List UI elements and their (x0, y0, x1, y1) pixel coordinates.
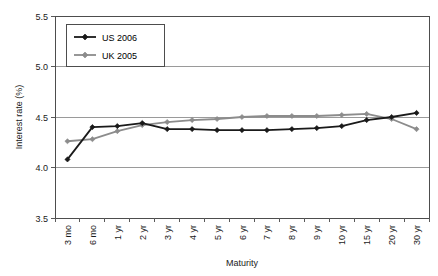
line-chart: 3.54.04.55.05.5 3 mo6 mo1 yr2 yr3 yr4 yr… (0, 0, 438, 276)
x-tick-label: 5 yr (213, 225, 223, 240)
x-tick-label: 3 mo (63, 225, 73, 245)
y-tick-label: 4.5 (35, 113, 48, 123)
x-tick-label: 9 yr (312, 225, 322, 240)
y-tick-label: 4.0 (35, 163, 48, 173)
chart-svg: 3.54.04.55.05.5 3 mo6 mo1 yr2 yr3 yr4 yr… (0, 0, 438, 276)
x-tick-label: 3 yr (163, 225, 173, 240)
y-tick-label: 5.5 (35, 12, 48, 22)
x-tick-label: 30 yr (412, 225, 422, 245)
y-tick-label: 3.5 (35, 214, 48, 224)
x-tick-label: 6 yr (238, 225, 248, 240)
x-tick-label: 7 yr (262, 225, 272, 240)
x-tick-label: 4 yr (188, 225, 198, 240)
x-tick-label: 15 yr (362, 225, 372, 245)
y-axis-title: Interest rate (%) (14, 85, 24, 150)
x-tick-label: 6 mo (88, 225, 98, 245)
x-axis-title: Maturity (226, 258, 259, 268)
x-tick-label: 20 yr (387, 225, 397, 245)
y-tick-label: 5.0 (35, 62, 48, 72)
legend-label-0[interactable]: US 2006 (102, 33, 137, 43)
x-tick-label: 8 yr (287, 225, 297, 240)
legend-label-1[interactable]: UK 2005 (102, 51, 137, 61)
x-tick-label: 2 yr (138, 225, 148, 240)
chart-legend[interactable]: US 2006UK 2005 (66, 24, 164, 66)
x-tick-label: 1 yr (113, 225, 123, 240)
x-tick-label: 10 yr (337, 225, 347, 245)
